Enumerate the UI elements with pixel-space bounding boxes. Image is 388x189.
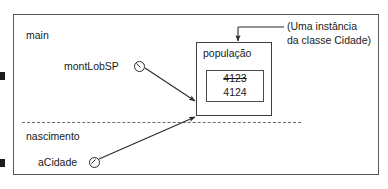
object-value-box: 4123 4124 bbox=[206, 70, 264, 102]
page-edge-mark-bottom bbox=[0, 159, 5, 167]
dashed-divider-icon bbox=[22, 122, 301, 123]
stack-region-label-main: main bbox=[26, 29, 49, 41]
variable-label-acidade: aCidade bbox=[38, 156, 77, 168]
object-field-label: população bbox=[203, 47, 251, 59]
stack-region-label-nascimento: nascimento bbox=[26, 130, 80, 142]
reference-circle-icon-acidade bbox=[89, 157, 100, 168]
instance-annotation-line1: (Uma instância bbox=[287, 19, 371, 33]
instance-annotation: (Uma instância da classe Cidade) bbox=[287, 19, 371, 47]
page-edge-mark-top bbox=[0, 72, 5, 80]
object-value-new: 4124 bbox=[207, 86, 263, 98]
object-value-old: 4123 bbox=[207, 72, 263, 84]
instance-annotation-line2: da classe Cidade) bbox=[287, 33, 371, 47]
reference-circle-icon-montlobsp bbox=[134, 61, 145, 72]
variable-label-montlobsp: montLobSP bbox=[64, 60, 119, 72]
diagram-canvas: main nascimento montLobSP aCidade popula… bbox=[0, 0, 388, 189]
